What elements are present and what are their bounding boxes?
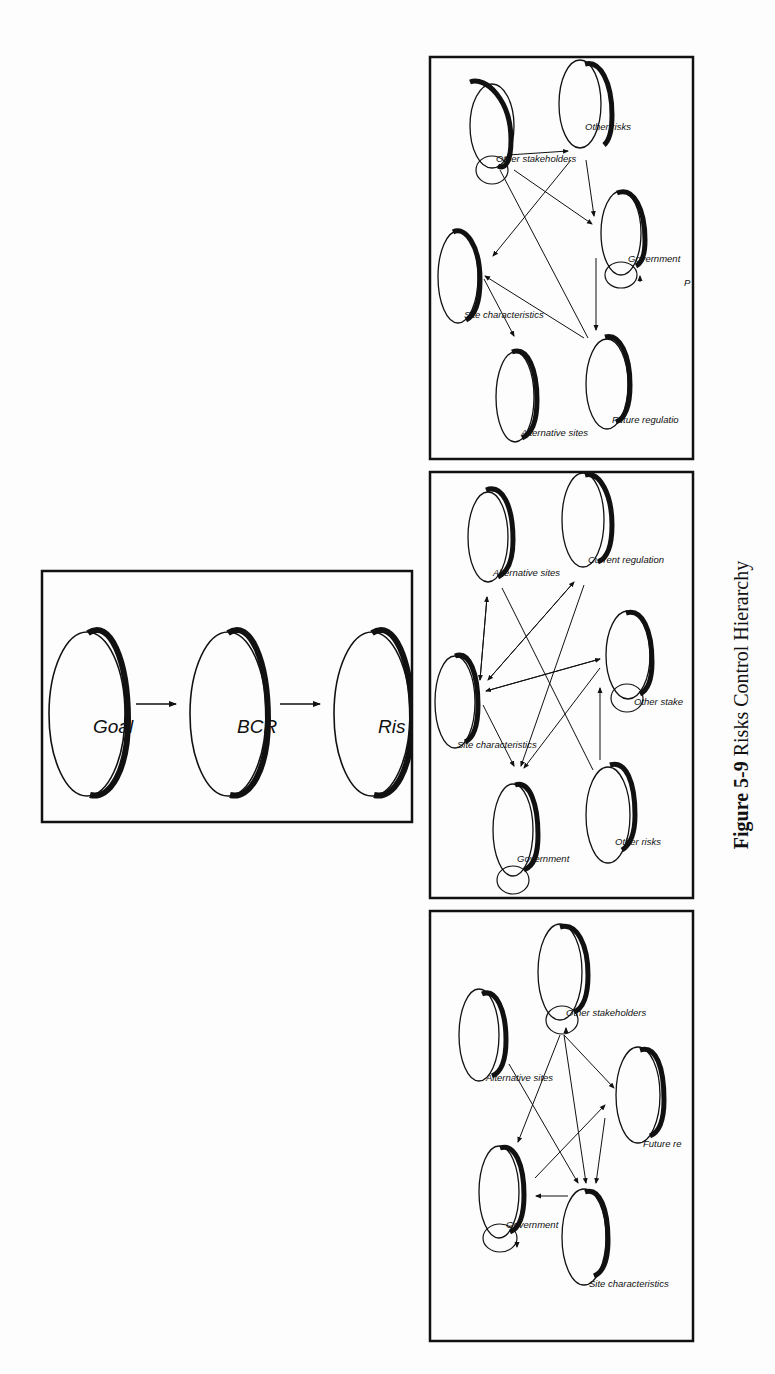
middle-label-current-regulation: Current regulation — [588, 554, 664, 565]
node-label-risk: Ris — [378, 716, 406, 737]
node-risk: Ris — [334, 630, 412, 796]
main-hierarchy-panel: Goal BCR Ris — [42, 571, 412, 822]
top-label-site-characteristics: Site characteristics — [464, 309, 544, 320]
middle-label-government: Government — [517, 853, 570, 864]
middle-label-alternative-sites: Alternative sites — [492, 567, 560, 578]
top-label-future-regulation: Future regulatio — [612, 414, 679, 425]
middle-label-site-characteristics: Site characteristics — [457, 739, 537, 750]
top-label-government: Government — [628, 253, 681, 264]
middle-label-other-risks: Other risks — [615, 836, 661, 847]
top-label-other-stakeholders: Other stakeholders — [496, 153, 577, 164]
bottom-label-other-stakeholders: Other stakeholders — [566, 1007, 647, 1018]
node-goal: Goal — [49, 630, 134, 796]
risks-control-hierarchy-diagram: Goal BCR Ris — [0, 0, 775, 1374]
top-extra-text: P — [684, 277, 691, 288]
bottom-label-alternative-sites: Alternative sites — [485, 1072, 553, 1083]
node-label-bcr: BCR — [237, 716, 277, 737]
node-label-goal: Goal — [93, 716, 134, 737]
top-label-other-risks: Other risks — [585, 121, 631, 132]
subnetwork-bottom-panel: Other stakeholders Alternative sites Fut… — [430, 911, 693, 1341]
node-bcr: BCR — [190, 630, 277, 796]
bottom-label-future-regulation: Future re — [643, 1138, 682, 1149]
middle-label-other-stakeholders: Other stake — [634, 696, 683, 707]
figure-title: Risks Control Hierarchy — [730, 561, 752, 757]
bottom-label-government: Government — [506, 1219, 559, 1230]
figure-caption: Figure 5-9 Risks Control Hierarchy — [716, 480, 766, 930]
subnetwork-middle-panel: Alternative sites Current regulation Oth… — [430, 472, 693, 898]
subnetwork-top-panel: Other stakeholders Other risks Governmen… — [430, 57, 693, 459]
bottom-label-site-characteristics: Site characteristics — [589, 1278, 669, 1289]
document-page: Goal BCR Ris — [0, 0, 775, 1374]
figure-number: Figure 5-9 — [730, 761, 752, 849]
top-label-alternative-sites: Alternative sites — [520, 427, 588, 438]
